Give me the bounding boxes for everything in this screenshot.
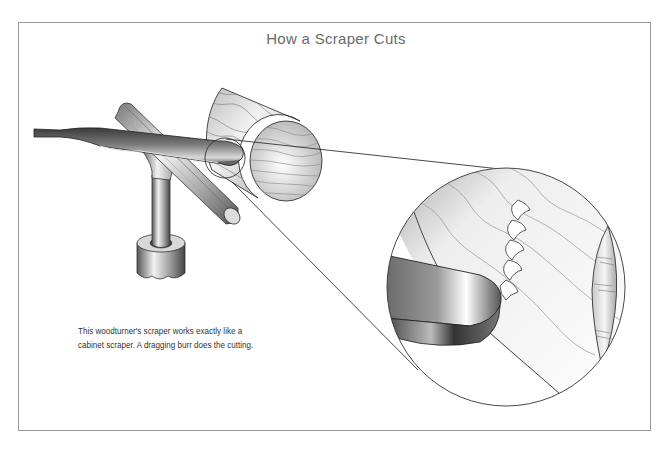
caption-line: cabinet scraper. A dragging burr does th… xyxy=(78,338,284,352)
figure-caption: This woodturner's scraper works exactly … xyxy=(78,324,284,351)
scraper-illustration xyxy=(0,0,672,455)
detail-circle-magnified xyxy=(380,150,640,420)
caption-line: This woodturner's scraper works exactly … xyxy=(78,324,284,338)
